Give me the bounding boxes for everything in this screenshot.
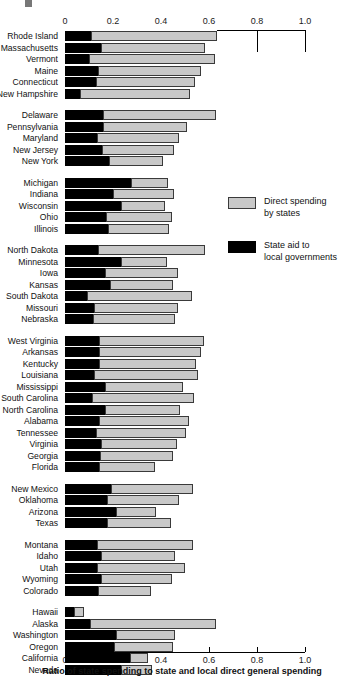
bar-row: Wyoming — [0, 574, 364, 584]
bar-segment-state-aid — [65, 66, 98, 76]
row-label-oregon: Oregon — [0, 642, 58, 652]
stacked-bar — [65, 607, 305, 617]
bar-segment-state-aid — [65, 54, 89, 64]
stacked-bar — [65, 89, 305, 99]
bar-segment-direct-spending — [116, 507, 156, 517]
bar-segment-state-aid — [65, 653, 130, 663]
bar-segment-state-aid — [65, 178, 131, 188]
bar-segment-direct-spending — [99, 359, 195, 369]
bar-segment-direct-spending — [131, 178, 168, 188]
bar-segment-direct-spending — [110, 280, 173, 290]
bar-segment-state-aid — [65, 462, 99, 472]
row-label-new-jersey: New Jersey — [0, 145, 58, 155]
stacked-bar — [65, 586, 305, 596]
bar-segment-direct-spending — [97, 133, 179, 143]
bar-segment-state-aid — [65, 551, 101, 561]
stacked-bar — [65, 133, 305, 143]
bar-row: New Jersey — [0, 145, 364, 155]
bar-row: Washington — [0, 630, 364, 640]
bar-segment-state-aid — [65, 122, 103, 132]
bar-row: Alaska — [0, 619, 364, 629]
bar-segment-state-aid — [65, 428, 96, 438]
chart-legend: Direct spending by states State aid to l… — [228, 196, 360, 284]
bar-segment-direct-spending — [99, 416, 189, 426]
bar-row: Arizona — [0, 507, 364, 517]
bar-segment-direct-spending — [91, 31, 217, 41]
stacked-bar — [65, 77, 305, 87]
stacked-bar — [65, 642, 305, 652]
bar-segment-direct-spending — [87, 291, 193, 301]
bar-segment-state-aid — [65, 189, 113, 199]
bar-row: Vermont — [0, 54, 364, 64]
bar-segment-state-aid — [65, 484, 111, 494]
bar-segment-state-aid — [65, 257, 121, 267]
legend-item-direct-spending: Direct spending by states — [228, 196, 360, 222]
bar-segment-direct-spending — [105, 268, 178, 278]
bar-segment-direct-spending — [121, 201, 164, 211]
stacked-bar — [65, 110, 305, 120]
bar-segment-state-aid — [65, 416, 99, 426]
row-label-iowa: Iowa — [0, 268, 58, 278]
row-label-indiana: Indiana — [0, 189, 58, 199]
bar-row: West Virginia — [0, 336, 364, 346]
row-label-maryland: Maryland — [0, 133, 58, 143]
row-label-vermont: Vermont — [0, 54, 58, 64]
bar-segment-direct-spending — [80, 89, 190, 99]
stacked-bar — [65, 428, 305, 438]
bar-segment-state-aid — [65, 291, 87, 301]
bar-row: Oklahoma — [0, 495, 364, 505]
stacked-bar — [65, 619, 305, 629]
x-tick-label-top-0.2: 0.2 — [107, 16, 120, 26]
bar-segment-direct-spending — [106, 212, 172, 222]
bar-row: Pennsylvania — [0, 122, 364, 132]
row-label-colorado: Colorado — [0, 586, 58, 596]
bar-row: Mississippi — [0, 382, 364, 392]
row-label-maine: Maine — [0, 66, 58, 76]
row-label-nebraska: Nebraska — [0, 314, 58, 324]
bar-segment-state-aid — [65, 145, 102, 155]
stacked-bar — [65, 178, 305, 188]
stacked-bar — [65, 31, 305, 41]
stacked-bar — [65, 393, 305, 403]
bar-row: California — [0, 653, 364, 663]
x-tick-label-top-0.6: 0.6 — [203, 16, 216, 26]
stacked-bar — [65, 563, 305, 573]
row-label-washington: Washington — [0, 630, 58, 640]
x-tick-label-top-0: 0 — [62, 16, 67, 26]
bar-segment-state-aid — [65, 382, 105, 392]
stacked-bar — [65, 462, 305, 472]
guide-line-0.8 — [257, 30, 258, 52]
row-label-south-carolina: South Carolina — [0, 393, 58, 403]
stacked-bar — [65, 314, 305, 324]
stacked-bar — [65, 336, 305, 346]
bar-row: New Mexico — [0, 484, 364, 494]
bar-segment-direct-spending — [90, 619, 216, 629]
x-tick-label-top-1.0: 1.0 — [299, 16, 312, 26]
row-label-north-dakota: North Dakota — [0, 245, 58, 255]
row-label-connecticut: Connecticut — [0, 77, 58, 87]
x-axis-title: Ratio of state spending to state and loc… — [0, 666, 364, 676]
row-label-alabama: Alabama — [0, 416, 58, 426]
bar-segment-state-aid — [65, 642, 114, 652]
bar-segment-direct-spending — [113, 189, 174, 199]
bar-segment-direct-spending — [114, 642, 173, 652]
bar-row: Arkansas — [0, 347, 364, 357]
bar-segment-direct-spending — [96, 77, 195, 87]
bar-segment-direct-spending — [97, 563, 185, 573]
bar-segment-direct-spending — [103, 122, 187, 132]
bar-segment-direct-spending — [105, 405, 181, 415]
bar-segment-state-aid — [65, 607, 74, 617]
bar-row: New York — [0, 156, 364, 166]
bar-segment-direct-spending — [108, 224, 169, 234]
stacked-bar — [65, 439, 305, 449]
bar-segment-state-aid — [65, 630, 116, 640]
bar-row: Colorado — [0, 586, 364, 596]
stacked-bar — [65, 122, 305, 132]
bar-segment-direct-spending — [105, 382, 182, 392]
bar-segment-direct-spending — [107, 495, 179, 505]
bar-row: South Carolina — [0, 393, 364, 403]
bar-row: Alabama — [0, 416, 364, 426]
row-label-new-mexico: New Mexico — [0, 484, 58, 494]
row-label-hawaii: Hawaii — [0, 607, 58, 617]
stacked-bar — [65, 551, 305, 561]
